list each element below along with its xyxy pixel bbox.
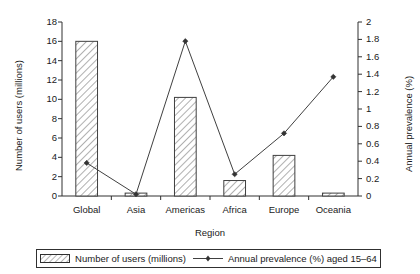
y-left-tick-0: 0 — [30, 191, 57, 201]
bar-americas — [174, 97, 196, 196]
bar-global — [76, 41, 98, 196]
y-left-tick-14: 14 — [30, 56, 57, 66]
y-left-tick-18: 18 — [30, 17, 57, 27]
y-right-tick-1.6: 1.6 — [366, 52, 379, 62]
y-left-tick-12: 12 — [30, 75, 57, 85]
bar-europe — [273, 155, 295, 196]
y-right-tick-1.4: 1.4 — [366, 69, 379, 79]
y-right-tick-2: 2 — [366, 17, 371, 27]
x-axis-title: Region — [195, 228, 225, 238]
legend-item-bars: Number of users (millions) — [40, 254, 186, 264]
y-left-tick-6: 6 — [30, 133, 57, 143]
hatch-swatch-icon — [40, 254, 70, 263]
y-right-tick-0.6: 0.6 — [366, 139, 379, 149]
combo-chart: 024681012141618 00.20.40.60.811.21.41.61… — [0, 0, 420, 274]
bar-series — [76, 41, 344, 196]
x-tick-label-oceania: Oceania — [316, 205, 351, 215]
bar-africa — [224, 181, 246, 196]
y-left-tick-2: 2 — [30, 172, 57, 182]
y-right-tick-1: 1 — [366, 104, 371, 114]
legend-item-line: Annual prevalence (%) aged 15–64 — [193, 254, 377, 264]
y-right-tick-0: 0 — [366, 191, 371, 201]
y-left-tick-4: 4 — [30, 153, 57, 163]
y-left-tick-10: 10 — [30, 95, 57, 105]
x-tick-label-americas: Americas — [166, 205, 206, 215]
x-tick-label-europe: Europe — [269, 205, 300, 215]
line-marker-swatch-icon — [193, 254, 223, 263]
y-right-tick-1.8: 1.8 — [366, 35, 379, 45]
line-marker-americas — [183, 39, 188, 44]
y-axis-right-title: Annual prevalence (%) — [404, 76, 414, 172]
y-right-tick-1.2: 1.2 — [366, 87, 379, 97]
line-series — [84, 39, 336, 197]
y-left-tick-16: 16 — [30, 37, 57, 47]
y-axis-left-title: Number of users (millions) — [14, 60, 24, 171]
x-tick-label-global: Global — [73, 205, 100, 215]
legend-label-bars: Number of users (millions) — [75, 254, 186, 264]
y-right-tick-0.4: 0.4 — [366, 156, 379, 166]
chart-legend: Number of users (millions) Annual preval… — [36, 249, 381, 268]
x-tick-label-africa: Africa — [223, 205, 247, 215]
y-right-tick-0.2: 0.2 — [366, 174, 379, 184]
x-tick-label-asia: Asia — [127, 205, 145, 215]
legend-label-line: Annual prevalence (%) aged 15–64 — [228, 254, 377, 264]
bar-oceania — [322, 193, 344, 196]
y-left-tick-8: 8 — [30, 114, 57, 124]
y-right-tick-0.8: 0.8 — [366, 122, 379, 132]
